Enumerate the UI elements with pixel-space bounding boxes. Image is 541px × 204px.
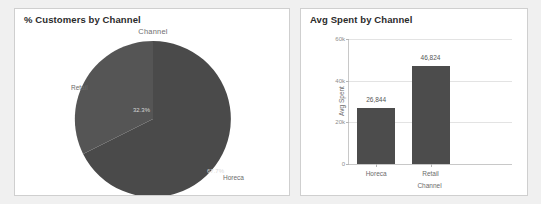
y-axis-title: Avg Spent [338, 86, 345, 116]
x-axis-tick-label-retail: Retail [422, 170, 439, 177]
y-axis-tick-label: 0 [342, 161, 345, 167]
pie-chart: Channel Retail Horeca 32.3% 67.7% [15, 27, 290, 196]
bar-value-label: 26,844 [366, 96, 386, 103]
page-title-customers: % Customers by Channel [24, 14, 141, 25]
y-axis-tick [346, 39, 349, 40]
pie-value-retail: 32.3% [133, 107, 150, 113]
gridline [349, 39, 512, 40]
bar-retail[interactable] [412, 66, 450, 164]
y-axis-tick [346, 164, 349, 165]
dashboard-root: % Customers by Channel Channel Retail Ho… [0, 0, 541, 204]
bar-chart-plot-area: 020k40k60k26,844Horeca46,824Retail [348, 39, 512, 165]
pie-value-horeca: 67.7% [207, 168, 224, 174]
x-axis-tick [431, 164, 432, 167]
y-axis-tick-label: 40k [335, 78, 345, 84]
bar-horeca[interactable] [357, 108, 395, 164]
pie-chart-title: Channel [15, 27, 290, 36]
pie-label-retail: Retail [71, 84, 88, 91]
panel-avg-spent-by-channel: Avg Spent by Channel 020k40k60k26,844Hor… [300, 8, 528, 196]
bar-value-label: 46,824 [421, 54, 441, 61]
x-axis-tick [376, 164, 377, 167]
page-title-avg-spent: Avg Spent by Channel [310, 14, 412, 25]
pie-label-horeca: Horeca [223, 174, 244, 181]
panel-customers-by-channel: % Customers by Channel Channel Retail Ho… [14, 8, 290, 196]
x-axis-tick-label-horeca: Horeca [366, 170, 387, 177]
y-axis-tick-label: 60k [335, 36, 345, 42]
y-axis-tick-label: 20k [335, 119, 345, 125]
x-axis-title: Channel [348, 182, 511, 189]
y-axis-tick [346, 81, 349, 82]
y-axis-tick [346, 122, 349, 123]
bar-chart: 020k40k60k26,844Horeca46,824Retail Avg S… [301, 25, 528, 196]
